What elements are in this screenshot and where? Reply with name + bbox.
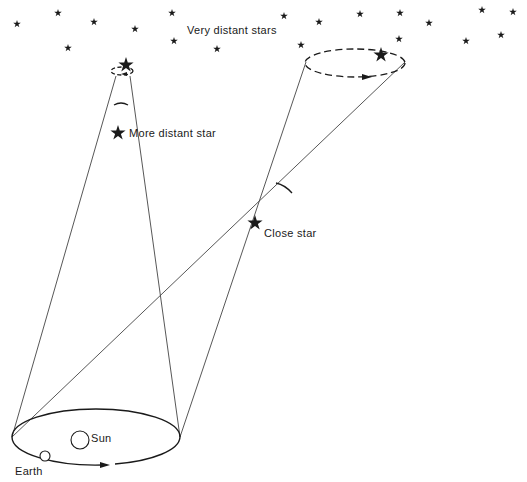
parallax-angle-arc-large — [276, 183, 292, 193]
earth-circle — [40, 451, 50, 461]
distant-star-icon — [170, 37, 178, 44]
distant-star-icon — [497, 31, 505, 38]
distant-star-icon — [297, 41, 305, 48]
distant-star-icon — [478, 6, 486, 13]
distant-star-icon — [425, 19, 433, 26]
close-star-label: Close star — [264, 227, 317, 239]
distant-star-icon — [315, 18, 323, 25]
earth-label: Earth — [15, 465, 43, 477]
star-icon — [373, 47, 388, 61]
sun-circle — [71, 431, 89, 449]
more-distant-star-label: More distant star — [129, 127, 216, 139]
distant-star-icon — [280, 12, 288, 19]
close-star-icon — [247, 215, 262, 229]
very-distant-stars-label: Very distant stars — [187, 24, 277, 36]
distant-star-icon — [509, 8, 517, 15]
distant-star-icon — [213, 45, 221, 52]
distant-star-icon — [131, 25, 139, 32]
distant-star-icon — [54, 9, 62, 16]
distant-star-icon — [168, 9, 176, 16]
arrow-icon — [362, 74, 372, 80]
distant-star-icon — [396, 9, 404, 16]
distant-star-icon — [395, 35, 403, 42]
distant-star-icon — [13, 20, 21, 27]
sight-lines-close-star — [12, 62, 405, 437]
distant-star-icon — [356, 10, 364, 17]
orbit-direction-arrow-icon — [100, 462, 110, 468]
parallax-ellipse-more-distant-star — [111, 57, 134, 76]
distant-star-icon — [64, 44, 72, 51]
distant-star-icon — [462, 37, 470, 44]
distant-star-icon — [90, 18, 98, 25]
sun-label: Sun — [91, 432, 111, 444]
parallax-ellipse-close-star — [305, 47, 405, 80]
parallax-angle-arc-small — [114, 103, 128, 105]
more-distant-star-icon — [110, 125, 125, 139]
parallax-diagram — [0, 0, 527, 482]
